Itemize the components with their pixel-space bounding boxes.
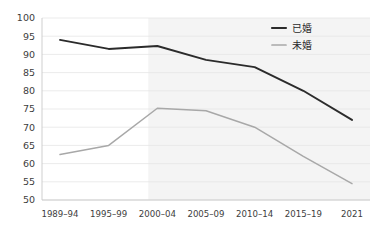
x-tick-label-1: 1995–99 [90,209,127,219]
y-tick-label-90: 90 [23,49,35,60]
x-tick-label-0: 1989–94 [41,209,78,219]
chart-canvas: 50556065707580859095100 1989–941995–9920… [0,0,374,239]
legend-label-married: 已婚 [292,22,312,34]
y-axis-tick-labels: 50556065707580859095100 [17,12,35,205]
line-chart: 50556065707580859095100 1989–941995–9920… [0,0,374,239]
y-tick-label-95: 95 [23,31,35,42]
x-tick-label-4: 2010–14 [236,209,273,219]
y-tick-label-100: 100 [17,12,35,23]
y-tick-label-80: 80 [23,85,35,96]
x-tick-label-6: 2021 [341,209,363,219]
x-tick-label-3: 2005–09 [187,209,224,219]
y-tick-label-55: 55 [23,176,35,187]
y-tick-label-50: 50 [23,194,35,205]
y-tick-label-60: 60 [23,158,35,169]
legend-label-unmarried: 未婚 [292,39,312,51]
y-tick-label-70: 70 [23,122,35,133]
y-tick-label-75: 75 [23,103,35,114]
y-tick-label-85: 85 [23,67,35,78]
x-axis-tick-labels: 1989–941995–992000–042005–092010–142015–… [41,209,362,219]
x-tick-label-5: 2015–19 [285,209,322,219]
x-tick-label-2: 2000–04 [139,209,176,219]
y-tick-label-65: 65 [23,140,35,151]
